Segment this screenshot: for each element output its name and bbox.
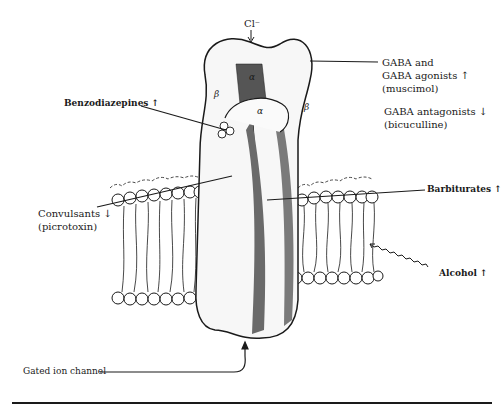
antag-line-2: (bicuculline): [384, 118, 487, 131]
convuls-line-1: Convulsants ↓: [38, 207, 112, 220]
chloride-ion-label: Cl⁻: [244, 17, 260, 30]
convuls-line-2: (picrotoxin): [38, 220, 112, 233]
gaba-agonist-label: GABA and GABA agonists ↑ (muscimol): [382, 56, 469, 95]
benzodiazepines-label: Benzodiazepines ↑: [64, 97, 159, 110]
alcohol-label: Alcohol ↑: [439, 267, 488, 280]
gated-ion-channel-label: Gated ion channel: [23, 365, 106, 378]
subunit-beta-right: β: [303, 102, 309, 112]
subunit-alpha-front: α: [257, 106, 263, 116]
lipid-bilayer-left: [110, 176, 206, 305]
subunit-beta-left: β: [213, 89, 219, 99]
gaba-line-2: GABA agonists ↑: [382, 69, 469, 82]
gaba-leader-line: [310, 61, 378, 62]
antag-line-1: GABA antagonists ↓: [384, 105, 487, 118]
subunit-alpha-back: α: [249, 72, 255, 82]
gated-leader-line: [100, 345, 245, 372]
alcohol-leader-line: [370, 244, 428, 267]
ion-channel-body: [196, 39, 312, 339]
gaba-antagonist-label: GABA antagonists ↓ (bicuculline): [384, 105, 487, 131]
gaba-line-3: (muscimol): [382, 82, 469, 95]
convulsants-label: Convulsants ↓ (picrotoxin): [38, 207, 112, 233]
barbiturates-label: Barbiturates ↑: [427, 183, 502, 196]
gaba-line-1: GABA and: [382, 56, 469, 69]
